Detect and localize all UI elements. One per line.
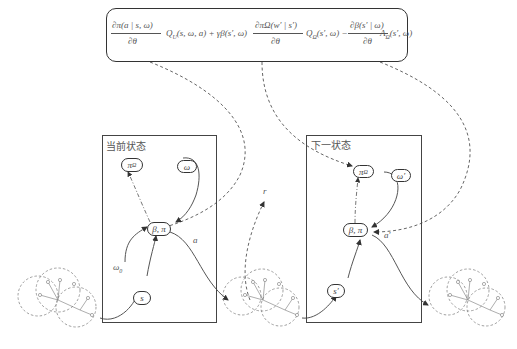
action-label: a (193, 235, 198, 245)
node-state: s (133, 291, 151, 305)
next-node-option: ω′ (391, 169, 411, 182)
initial-option-label: ω0 (113, 262, 122, 274)
term1-fraction-line (111, 33, 161, 34)
node-option: ω (177, 160, 197, 173)
node-option-policy: πΩ (121, 158, 143, 172)
term2-q-value: QΩ(s′, ω) − (306, 28, 348, 40)
term1-denominator: ∂θ (128, 36, 137, 46)
term3-numerator: ∂β(s′ | ω) (350, 20, 384, 30)
policy-gradient-formula (106, 8, 408, 62)
next-node-option-policy: πΩ (353, 165, 374, 178)
term2-numerator: ∂πΩ(w′ | s′) (255, 20, 297, 30)
next-node-state: s′ (327, 284, 345, 298)
node-termination-intra-policy: β, π (147, 222, 171, 236)
term3-advantage: AΩ(s′, ω) (380, 28, 412, 40)
option-critic-diagram: ∂π(a | s, ω) ∂θ QU(s, ω, a) + γβ(s′, ω) … (0, 0, 517, 349)
next-node-termination-intra-policy: β, π (343, 223, 368, 237)
next-state-label: 下一状态 (311, 137, 351, 152)
next-action-label: a′ (384, 230, 390, 240)
current-state-label: 当前状态 (106, 138, 146, 153)
term1-numerator: ∂π(a | s, ω) (112, 20, 153, 30)
term3-denominator: ∂θ (363, 36, 372, 46)
term2-denominator: ∂θ (271, 36, 280, 46)
reward-label: r (263, 186, 267, 196)
term2-fraction-line (253, 33, 303, 34)
term1-q-value: QU(s, ω, a) + γβ(s′, ω) (166, 28, 247, 40)
